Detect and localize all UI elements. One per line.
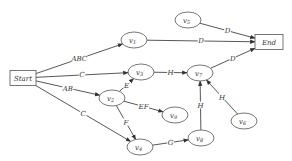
edge-label: ABC <box>70 55 87 63</box>
edge-label: C <box>79 71 85 79</box>
edge-label: D <box>229 55 236 63</box>
node-v4: v4 <box>127 139 153 155</box>
edge-label: D <box>224 27 231 35</box>
workflow-graph: ABCCABCDDDHEEFFGHH StartEndv1v2v3v4v5v6v… <box>0 0 292 161</box>
node-v6: v6 <box>231 113 257 129</box>
node-v5: v5 <box>175 12 201 28</box>
edge-label: H <box>218 94 226 102</box>
node-v7: v7 <box>187 65 213 81</box>
edge-label: G <box>168 139 174 147</box>
edge-label: D <box>197 37 204 45</box>
edge-label: C <box>80 110 86 118</box>
node-start: Start <box>10 71 36 86</box>
edge-label: E <box>123 82 129 90</box>
node-v2: v2 <box>99 90 125 106</box>
edge-label: AB <box>62 85 73 93</box>
node-v8: v8 <box>188 130 214 146</box>
node-v3: v3 <box>128 64 154 80</box>
node-label: End <box>261 39 277 47</box>
node-v9: v9 <box>162 107 188 123</box>
node-v1: v1 <box>121 32 147 48</box>
nodes: StartEndv1v2v3v4v5v6v7v8v9 <box>10 12 283 155</box>
edge-label: EF <box>138 103 150 111</box>
node-end: End <box>255 35 283 50</box>
node-label: Start <box>14 75 32 83</box>
edge-label: H <box>166 69 174 77</box>
edge-label: H <box>196 102 204 110</box>
